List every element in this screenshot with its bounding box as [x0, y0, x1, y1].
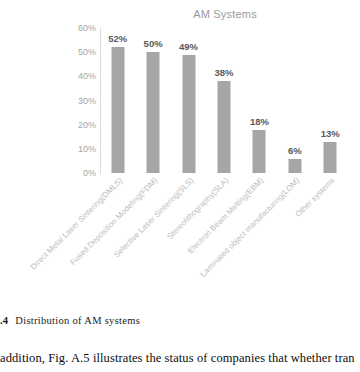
bar-group: 49%: [171, 28, 206, 173]
bar-group: 18%: [242, 28, 277, 173]
y-axis-tick: 20%: [50, 120, 96, 130]
y-axis-tick: 50%: [50, 47, 96, 57]
bar-value-label: 52%: [108, 33, 127, 44]
body-paragraph: addition, Fig. A.5 illustrates the statu…: [0, 351, 360, 366]
bar-value-label: 50%: [144, 38, 163, 49]
plot-area: 52%50%49%38%18%6%13%: [100, 28, 348, 173]
bar: [253, 130, 266, 174]
bar-value-label: 49%: [179, 41, 198, 52]
y-axis-tick-labels: 60%50%40%30%20%10%0%: [48, 28, 96, 173]
bar: [324, 142, 337, 173]
bar: [288, 159, 301, 174]
y-axis-tick: 30%: [50, 96, 96, 106]
figure-number: .4: [0, 315, 8, 326]
bar-value-label: 38%: [214, 67, 233, 78]
x-axis-category-labels: Direct Metal Laser Sintering(DMLS)Fused …: [100, 176, 348, 296]
y-axis-tick: 40%: [50, 71, 96, 81]
bar-value-label: 13%: [321, 128, 340, 139]
bar: [182, 55, 195, 173]
bar-group: 13%: [313, 28, 348, 173]
bar-value-label: 6%: [288, 145, 302, 156]
y-axis-tick: 0%: [50, 168, 96, 178]
bar-group: 6%: [277, 28, 312, 173]
bar: [147, 52, 160, 173]
bar-group: 52%: [100, 28, 135, 173]
bar: [217, 81, 230, 173]
chart-title: AM Systems: [100, 8, 350, 20]
y-axis-tick: 10%: [50, 144, 96, 154]
bar: [111, 47, 124, 173]
bar-group: 50%: [135, 28, 170, 173]
y-axis-tick: 60%: [50, 23, 96, 33]
bar-value-label: 18%: [250, 116, 269, 127]
figure-chart: AM Systems 60%50%40%30%20%10%0% 52%50%49…: [0, 0, 360, 300]
figure-caption: .4Distribution of AM systems: [0, 315, 360, 326]
figure-caption-text: Distribution of AM systems: [15, 315, 140, 326]
bar-group: 38%: [206, 28, 241, 173]
